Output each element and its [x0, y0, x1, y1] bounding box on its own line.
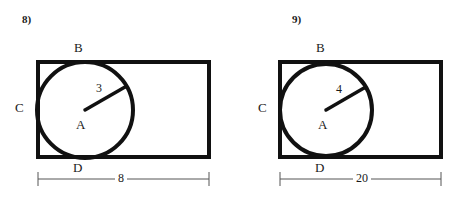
figure-9: 9) B C A D 4 20: [231, 0, 462, 200]
vertex-label-b-8: B: [74, 41, 83, 54]
vertex-label-b-9: B: [316, 41, 325, 54]
width-label-8: 8: [115, 172, 127, 184]
figure-8-drawing: [0, 0, 231, 200]
radius-label-8: 3: [96, 82, 102, 94]
vertex-label-d-8: D: [73, 161, 82, 174]
width-label-9: 20: [353, 172, 371, 184]
vertex-label-c-9: C: [258, 101, 267, 114]
vertex-label-d-9: D: [315, 161, 324, 174]
figure-8: 8) B C A D 3 8: [0, 0, 231, 200]
radius-label-9: 4: [336, 83, 342, 95]
vertex-label-c-8: C: [15, 101, 24, 114]
vertex-label-a-8: A: [76, 118, 85, 131]
vertex-label-a-9: A: [318, 118, 327, 131]
radius-line-9: [326, 88, 364, 110]
rectangle-outline-8: [38, 62, 209, 157]
radius-line-8: [85, 87, 125, 110]
